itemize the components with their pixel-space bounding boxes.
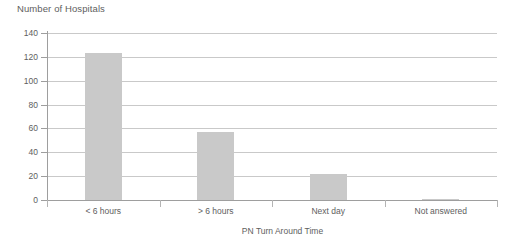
gridline [47,33,497,34]
y-tick-label: 60 [29,123,38,133]
y-tick-mark [41,33,47,34]
y-tick-label: 80 [29,100,38,110]
x-category-label: < 6 hours [47,206,160,216]
y-tick-label: 140 [24,28,38,38]
y-tick-mark [41,176,47,177]
x-axis-title-text: PN Turn Around Time [242,226,323,236]
x-tick-mark [497,200,498,207]
y-tick-mark [41,152,47,153]
y-tick-label: 40 [29,147,38,157]
y-tick-label: 100 [24,76,38,86]
bar [422,199,459,200]
y-tick-mark [41,105,47,106]
x-category-label: Next day [272,206,385,216]
y-tick-label: 20 [29,171,38,181]
y-axis-line [47,31,48,202]
y-tick-mark [41,57,47,58]
x-category-label: > 6 hours [160,206,273,216]
y-tick-mark [41,81,47,82]
y-tick-label: 120 [24,52,38,62]
bar-chart: Number of Hospitals 020406080100120140 <… [0,0,515,247]
y-tick-label: 0 [33,195,38,205]
y-tick-mark [41,128,47,129]
bar [85,53,122,200]
x-axis-title: PN Turn Around Time [0,226,515,236]
chart-title: Number of Hospitals [17,3,105,14]
x-category-label: Not answered [385,206,498,216]
bar [197,132,234,200]
bar [310,174,347,200]
